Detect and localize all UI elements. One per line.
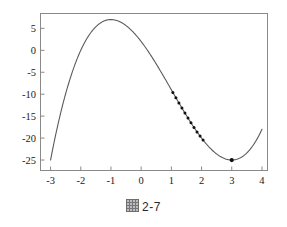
x-tick-label-3: 0 — [139, 175, 144, 186]
x-tick-label-1: -2 — [76, 175, 85, 186]
x-axis-tick-labels: -3-2-101234 — [40, 175, 268, 191]
figure-caption-text: 2-7 — [142, 200, 161, 214]
x-tick-label-4: 1 — [169, 175, 174, 186]
iteration-point-3 — [180, 107, 183, 110]
plot-area — [40, 13, 268, 171]
plot-svg — [40, 13, 268, 171]
iteration-point-0 — [171, 91, 174, 94]
iteration-point-10 — [202, 139, 205, 142]
x-tick-label-0: -3 — [46, 175, 55, 186]
y-tick-label-4: -15 — [22, 111, 36, 122]
iteration-point-7 — [193, 126, 196, 129]
iteration-point-5 — [186, 117, 189, 120]
x-tick-label-5: 2 — [199, 175, 204, 186]
iteration-point-8 — [196, 130, 199, 133]
iteration-point-9 — [199, 135, 202, 138]
figure-container: 50-5-10-15-20-25 -3-2-101234 2-7 — [0, 0, 287, 227]
figure-caption: 2-7 — [0, 199, 287, 214]
y-tick-label-1: 0 — [31, 45, 36, 56]
y-tick-label-0: 5 — [31, 23, 36, 34]
y-tick-label-6: -25 — [22, 155, 36, 166]
figure-glyph-icon — [126, 199, 139, 212]
iteration-point-4 — [183, 112, 186, 115]
y-tick-label-5: -20 — [22, 133, 36, 144]
x-tick-label-6: 3 — [229, 175, 234, 186]
x-tick-label-7: 4 — [259, 175, 264, 186]
iteration-point-6 — [189, 121, 192, 124]
y-axis-tick-labels: 50-5-10-15-20-25 — [0, 13, 36, 171]
minimum-point-0 — [230, 158, 234, 162]
plot-frame — [41, 14, 268, 171]
iteration-point-2 — [177, 101, 180, 104]
y-tick-label-2: -5 — [27, 67, 36, 78]
x-tick-label-2: -1 — [107, 175, 116, 186]
minimum-point-marker — [230, 158, 234, 162]
y-tick-label-3: -10 — [22, 89, 36, 100]
iteration-point-1 — [174, 96, 177, 99]
